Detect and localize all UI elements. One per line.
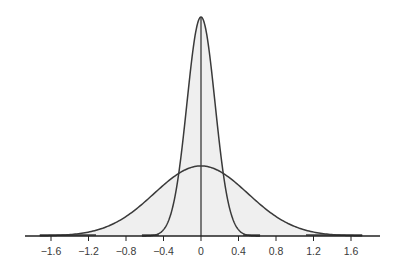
x-tick-label: −0.8 bbox=[116, 245, 137, 257]
normal-distribution-chart: −1.6−1.2−0.8−0.400.40.81.21.6 bbox=[0, 0, 398, 270]
x-axis-tick-labels: −1.6−1.2−0.8−0.400.40.81.21.6 bbox=[41, 245, 359, 257]
x-tick-label: 0.4 bbox=[231, 245, 246, 257]
x-tick-label: 1.6 bbox=[344, 245, 359, 257]
x-tick-label: 0 bbox=[198, 245, 204, 257]
x-tick-label: −0.4 bbox=[153, 245, 174, 257]
x-tick-label: −1.2 bbox=[78, 245, 99, 257]
x-tick-label: 0.8 bbox=[269, 245, 284, 257]
x-tick-label: −1.6 bbox=[41, 245, 62, 257]
x-tick-label: 1.2 bbox=[306, 245, 321, 257]
